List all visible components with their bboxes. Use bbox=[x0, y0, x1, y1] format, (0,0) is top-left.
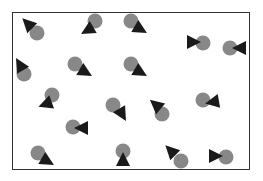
circle-triangle-pair bbox=[145, 94, 169, 121]
circle-triangle-pair bbox=[106, 98, 133, 125]
circle-triangle-pair bbox=[10, 55, 32, 82]
circle-triangle-pair bbox=[78, 14, 103, 41]
circle-triangle-pair bbox=[160, 140, 188, 168]
circle-icon bbox=[174, 154, 189, 169]
circle-triangle-pair bbox=[124, 57, 151, 83]
circle-triangle-pair bbox=[187, 35, 211, 51]
circle-triangle-pair bbox=[223, 41, 247, 56]
circle-triangle-pair bbox=[209, 149, 234, 165]
circle-triangle-pair bbox=[31, 146, 58, 172]
shapes-canvas bbox=[0, 0, 263, 181]
circle-triangle-pair bbox=[17, 13, 44, 40]
circle-triangle-pair bbox=[68, 57, 96, 83]
circle-triangle-pair bbox=[196, 93, 221, 111]
circle-triangle-pair bbox=[116, 144, 131, 167]
circle-triangle-pair bbox=[66, 120, 89, 136]
circle-triangle-pair bbox=[36, 88, 59, 114]
circle-triangle-pair bbox=[124, 14, 151, 40]
circle-icon bbox=[196, 93, 211, 108]
